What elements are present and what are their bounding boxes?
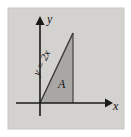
coordinate-plane-diagram: y x A y = 2x	[0, 0, 131, 137]
y-axis-label: y	[46, 12, 53, 26]
x-axis-label: x	[112, 99, 119, 113]
region-a-label: A	[57, 77, 66, 91]
figure-container: y x A y = 2x	[0, 0, 131, 137]
